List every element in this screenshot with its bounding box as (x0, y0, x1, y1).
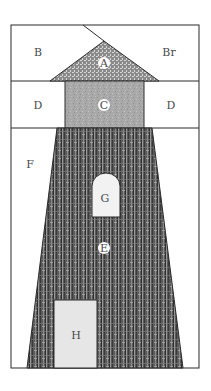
lighthouse-block-diagram: A B Br C D D E F G H (0, 0, 211, 391)
label-b: B (34, 46, 42, 59)
label-h: H (71, 329, 81, 342)
label-e: E (100, 242, 108, 255)
label-c: C (100, 99, 108, 112)
label-f: F (26, 158, 34, 171)
label-a: A (99, 57, 109, 70)
label-br: Br (162, 46, 176, 59)
label-d-left: D (34, 99, 43, 112)
label-g: G (101, 192, 110, 205)
label-d-right: D (167, 99, 176, 112)
